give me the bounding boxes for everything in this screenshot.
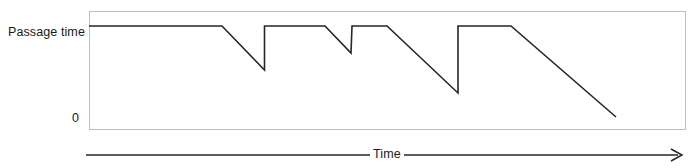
x-axis-label: Time bbox=[370, 148, 404, 161]
figure-container: Passage time 0 Time bbox=[0, 0, 691, 168]
chart-plot-area bbox=[0, 0, 691, 168]
plot-border bbox=[90, 12, 686, 130]
passage-time-series-line bbox=[89, 26, 616, 117]
